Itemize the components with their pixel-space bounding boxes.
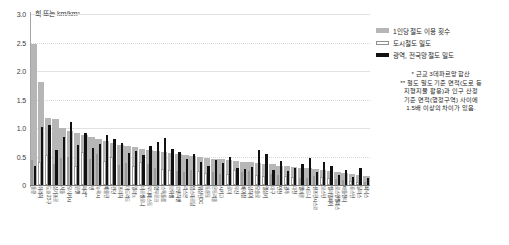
bar-group	[211, 14, 218, 185]
x-axis-tick-label: 빈	[88, 186, 93, 190]
bar-group	[59, 14, 66, 185]
bar-regional-national-rail-density	[287, 171, 289, 185]
x-axis-tick-label: 밀라노	[132, 186, 137, 198]
bar-regional-national-rail-density	[113, 139, 115, 185]
bar-group	[30, 14, 37, 185]
bar-regional-national-rail-density	[215, 160, 217, 185]
bar-group	[298, 14, 305, 185]
legend-item-label: 도시철도 밀도	[393, 38, 431, 48]
plot-area	[30, 14, 370, 185]
bar-regional-national-rail-density	[352, 177, 354, 185]
bar-regional-national-rail-density	[236, 168, 238, 185]
x-axis-tick-label: 달라스	[356, 186, 361, 198]
bar-group	[95, 14, 102, 185]
x-axis-tick-label: 샌프란시스코	[313, 186, 318, 209]
bar-regional-national-rail-density	[280, 161, 282, 185]
x-axis-tick-label: 로마	[226, 186, 231, 194]
x-axis-tick-label: 보스턴	[320, 186, 325, 198]
bar-regional-national-rail-density	[345, 170, 347, 185]
x-axis-tick-label: 함부르크	[154, 186, 159, 202]
x-axis-tick-label: 토론토	[204, 186, 209, 198]
y-axis-tick-label: 0.5	[17, 153, 30, 160]
y-axis-tick-label: 2.0	[17, 68, 30, 75]
bar-regional-national-rail-density	[316, 172, 318, 185]
bar-regional-national-rail-density	[63, 137, 65, 185]
x-axis-tick-label: 시드니	[306, 186, 311, 198]
bar-group	[117, 14, 124, 185]
x-axis-tick-label: 인천	[277, 186, 282, 194]
bar-regional-national-rail-density	[99, 144, 101, 185]
legend-swatch-gray	[376, 28, 389, 33]
x-axis-tick-label: 대전	[291, 186, 296, 194]
bar-regional-national-rail-density	[200, 162, 202, 185]
x-axis-tick-label: 오사카시	[67, 186, 72, 202]
x-axis-tick-label: 애틀랜타	[342, 186, 347, 202]
x-axis-tick-label: 헬싱키	[262, 186, 267, 198]
bar-group	[261, 14, 268, 185]
legend-item-label: 광역, 전국망 철도 밀도	[393, 50, 454, 60]
bar-group	[254, 14, 261, 185]
bar-regional-national-rail-density	[222, 163, 224, 185]
legend-swatch-white	[376, 41, 389, 45]
x-axis-tick-label: 암스테르담	[190, 186, 195, 206]
y-axis-tick-label: 1.5	[17, 96, 30, 103]
bar-group	[348, 14, 355, 185]
bar-group	[334, 14, 341, 185]
bar-regional-national-rail-density	[251, 167, 253, 185]
legend-swatch-black	[376, 53, 389, 57]
bar-regional-national-rail-density	[244, 169, 246, 185]
x-axis-tick-label: 프라하	[117, 186, 122, 198]
bar-group	[341, 14, 348, 185]
bar-regional-national-rail-density	[171, 149, 173, 185]
bar-regional-national-rail-density	[193, 154, 195, 185]
bar-regional-national-rail-density	[77, 145, 79, 185]
bar-regional-national-rail-density	[309, 158, 311, 185]
footnote-line: * 근교 3데파르망 합산	[374, 70, 508, 79]
bar-group	[110, 14, 117, 185]
bar-regional-national-rail-density	[272, 170, 274, 185]
x-axis-tick-label: 피닉스	[363, 186, 368, 198]
x-axis-tick-label: 싱가포르	[52, 186, 57, 202]
x-axis-tick-label: 멜버른	[298, 186, 303, 198]
x-axis-tick-label: 부산	[233, 186, 238, 194]
bar-regional-national-rail-density	[323, 162, 325, 185]
x-axis-tick-label: 바르셀로나	[139, 186, 144, 206]
bar-group	[44, 14, 51, 185]
x-axis-tick-label: 광주	[284, 186, 289, 194]
x-axis-tick-label: 홍콩	[31, 186, 36, 194]
bar-group	[73, 14, 80, 185]
bar-regional-national-rail-density	[301, 164, 303, 185]
bar-group	[276, 14, 283, 185]
x-axis-tick-label: 리스본	[183, 186, 188, 198]
bar-group	[37, 14, 44, 185]
bar-group	[102, 14, 109, 185]
y-axis-tick-label: 0	[22, 182, 30, 189]
x-axis-tick-label: 파리**	[81, 186, 86, 197]
bar-regional-national-rail-density	[178, 152, 180, 185]
x-axis-tick-label: 상하이	[248, 186, 253, 198]
bar-group	[225, 14, 232, 185]
x-axis-tick-label: 서울	[60, 186, 65, 194]
x-axis-tick-label: 오슬로	[255, 186, 260, 198]
bar-regional-national-rail-density	[135, 151, 137, 185]
bar-group	[305, 14, 312, 185]
bar-regional-national-rail-density	[294, 168, 296, 185]
x-axis-tick-label: 베를린	[103, 186, 108, 198]
bar-regional-national-rail-density	[359, 168, 361, 185]
x-axis-tick-label: 대구	[269, 186, 274, 194]
bar-regional-national-rail-density	[229, 157, 231, 186]
bar-regional-national-rail-density	[258, 150, 260, 185]
x-axis-tick-label: 뉴욕시	[96, 186, 101, 198]
bar-regional-national-rail-density	[92, 148, 94, 185]
legend-item: 광역, 전국망 철도 밀도	[376, 50, 506, 59]
x-axis-tick-label: 마드리드	[125, 186, 130, 202]
chart-container: 회 또는 km/km² 00.51.01.52.02.53.0 홍콩취리히도쿄 …	[0, 0, 509, 245]
legend-item: 1인당 철도 이용 횟수	[376, 26, 506, 35]
bar-group	[52, 14, 59, 185]
bar-group	[167, 14, 174, 185]
bar-regional-national-rail-density	[128, 153, 130, 185]
bar-regional-national-rail-density	[84, 133, 86, 185]
footnote-line: 지형지물 활용)과 인구 산정	[374, 87, 508, 96]
bar-group	[146, 14, 153, 185]
bar-group	[233, 14, 240, 185]
